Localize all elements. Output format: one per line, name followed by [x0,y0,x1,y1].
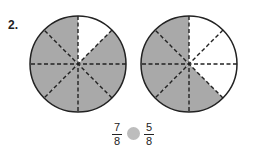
fraction-left: 7 8 [111,122,123,147]
denominator: 8 [146,135,152,147]
comparison-answer-circle[interactable] [127,127,140,140]
numerator: 7 [114,121,120,133]
circle-seven-eighths [30,16,126,112]
fraction-circles [0,0,253,152]
circle-five-eighths [141,16,237,112]
fraction-right: 5 8 [143,122,155,147]
numerator: 5 [146,121,152,133]
denominator: 8 [114,135,120,147]
